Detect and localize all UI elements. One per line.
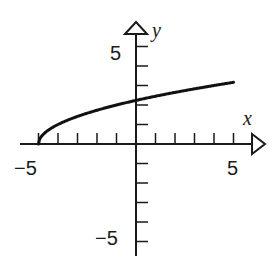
x-axis-label: x — [242, 107, 252, 129]
x-min-label: −5 — [14, 157, 37, 179]
y-axis-arrow-icon — [125, 22, 147, 34]
axes — [20, 22, 265, 256]
y-axis-label: y — [150, 19, 161, 42]
x-axis-arrow-icon — [252, 134, 265, 154]
y-max-label: 5 — [110, 42, 121, 64]
y-min-label: −5 — [95, 227, 118, 249]
x-max-label: 5 — [227, 157, 238, 179]
graph: x y −5 5 5 −5 — [0, 0, 275, 261]
